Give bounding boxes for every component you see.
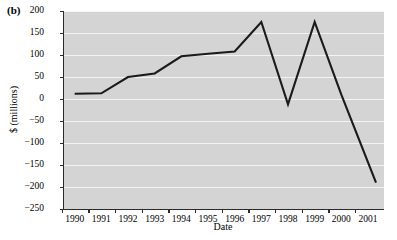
x-tick-mark (275, 209, 276, 213)
x-tick-mark (355, 209, 356, 213)
y-tick-label: −200 (4, 182, 44, 192)
y-tick-label: −50 (4, 116, 44, 126)
y-tick-label: 100 (4, 50, 44, 60)
x-tick-mark (142, 209, 143, 213)
x-tick-mark (62, 209, 63, 213)
x-tick-mark (222, 209, 223, 213)
x-tick-mark (168, 209, 169, 213)
plot-area: 200150100500−50−100−150−200−250 19901991… (63, 11, 384, 210)
x-tick-mark (302, 209, 303, 213)
x-tick-mark (195, 209, 196, 213)
figure-panel-b: (b) $ (millions) Date 200150100500−50−10… (0, 0, 397, 240)
x-tick-mark (88, 209, 89, 213)
y-tick-label: −100 (4, 138, 44, 148)
y-tick-label: 200 (4, 6, 44, 16)
y-tick-label: 0 (4, 94, 44, 104)
y-tick-label: −150 (4, 160, 44, 170)
x-tick-mark (115, 209, 116, 213)
x-tick-mark (248, 209, 249, 213)
x-tick-mark (328, 209, 329, 213)
y-tick-label: 50 (4, 72, 44, 82)
y-tick-label: 150 (4, 28, 44, 38)
y-tick-label: −250 (4, 204, 44, 214)
data-series-line (64, 11, 384, 209)
x-tick-label: 2001 (348, 214, 388, 224)
